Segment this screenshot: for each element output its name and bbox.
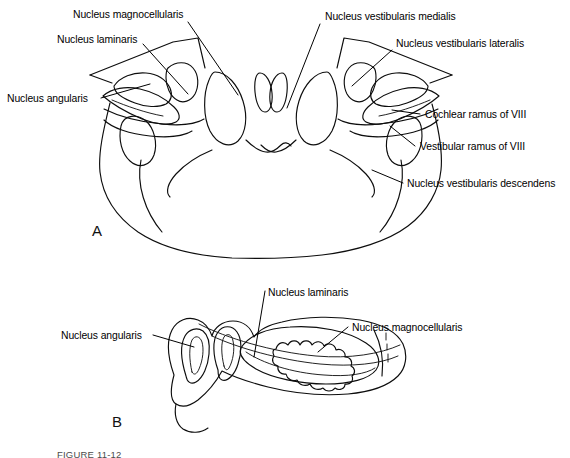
panel-letter-b: B (112, 413, 122, 430)
label-vestibular-ramus-of-viii-a: Vestibular ramus of VIII (420, 141, 525, 152)
label-nucleus-vestibularis-medialis-a: Nucleus vestibularis medialis (325, 11, 456, 22)
label-nucleus-angularis-b: Nucleus angularis (61, 330, 142, 341)
figure-caption: FIGURE 11-12 (57, 449, 122, 458)
leader-nucleus-laminaris-a (143, 44, 188, 94)
leader-nucleus-angularis-b (153, 335, 194, 347)
label-cochlear-ramus-of-viii-a: Cochlear ramus of VIII (425, 109, 526, 120)
label-nucleus-magnocellularis-b: Nucleus magnocellularis (352, 322, 462, 333)
leader-nucleus-magnocellularis-a (188, 22, 238, 95)
leader-nucleus-magnocellularis-b (318, 327, 348, 352)
leader-nucleus-vestibularis-medialis-a (287, 24, 320, 108)
label-nucleus-laminaris-a: Nucleus laminaris (57, 34, 137, 45)
label-nucleus-magnocellularis-a: Nucleus magnocellularis (73, 9, 183, 20)
label-nucleus-laminaris-b: Nucleus laminaris (268, 287, 348, 298)
leader-nucleus-vestibularis-descendens-a (372, 170, 403, 183)
panel-b-drawing (168, 317, 405, 432)
label-nucleus-angularis-a: Nucleus angularis (7, 93, 88, 104)
leader-nucleus-angularis-a (101, 84, 150, 98)
panel-a-drawing (90, 38, 452, 258)
label-nucleus-vestibularis-descendens-a: Nucleus vestibularis descendens (407, 178, 555, 189)
anatomical-line-drawing (0, 0, 570, 458)
label-nucleus-vestibularis-lateralis-a: Nucleus vestibularis lateralis (396, 38, 524, 49)
figure-root: Nucleus magnocellularis Nucleus laminari… (0, 0, 570, 458)
leader-nucleus-vestibularis-lateralis-a (352, 50, 392, 86)
panel-letter-a: A (92, 222, 102, 239)
